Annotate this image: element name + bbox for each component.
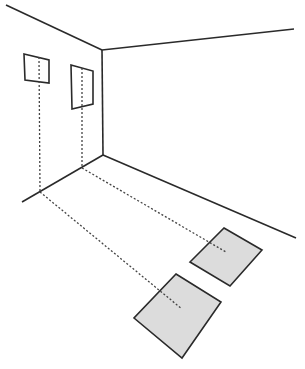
room-light-diagram (0, 0, 305, 369)
diagram-canvas (0, 0, 305, 369)
ceiling-left-edge (6, 5, 102, 50)
ceiling-right-edge (102, 29, 294, 50)
floor-left-edge (22, 155, 103, 202)
light-patches (134, 228, 262, 358)
window-left (24, 54, 49, 83)
patch-far (134, 274, 221, 358)
room-walls (6, 5, 296, 238)
projection-lines (39, 57, 226, 309)
window-right (71, 65, 93, 109)
window-right-floor-projection (82, 168, 226, 252)
window-left-floor-projection (40, 192, 182, 309)
window-left-vertical-drop (39, 57, 40, 192)
wall-corner-edge (102, 50, 103, 155)
